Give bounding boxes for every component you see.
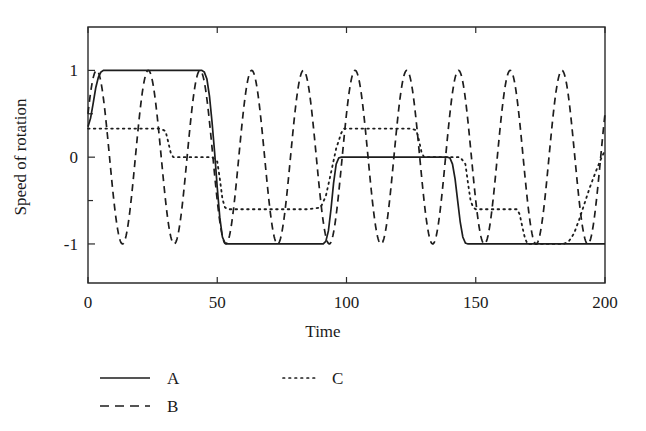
x-tick-label: 150 [463,293,489,312]
chart-background [0,0,646,431]
chart-canvas: 050100150200 -101 Time Speed of rotation… [0,0,646,431]
legend-label-a: A [167,369,180,388]
x-tick-label: 100 [334,293,360,312]
y-tick-label: -1 [64,235,78,254]
legend-label-b: B [167,397,178,416]
y-tick-label: 1 [70,61,79,80]
y-axis-title: Speed of rotation [11,98,30,216]
y-tick-label: 0 [70,148,79,167]
x-tick-label: 0 [84,293,93,312]
legend-label-c: C [332,369,343,388]
x-tick-label: 200 [592,293,618,312]
x-axis-title: Time [305,322,340,341]
chart-figure: 050100150200 -101 Time Speed of rotation… [0,0,646,431]
x-tick-label: 50 [209,293,226,312]
